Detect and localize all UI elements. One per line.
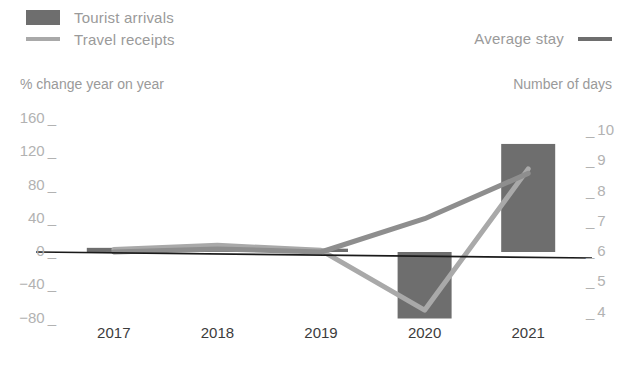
left-tick-80: 80 _ [28,176,56,193]
right-tick-5: _ 5 [586,272,606,289]
left-tick-0: 0 _ [36,242,56,259]
left-tick-40: 40 _ [28,209,56,226]
right-tick-4: _ 4 [586,303,606,320]
x-tick-2020: 2020 [385,324,465,341]
x-tick-2019: 2019 [281,324,361,341]
right-tick-9: _ 9 [586,151,606,168]
x-tick-2021: 2021 [488,324,568,341]
plot-area: 160 _120 _80 _40 _0 _−40 _−80 _ _ 10_ 9_… [0,0,626,366]
right-tick-8: _ 8 [586,182,606,199]
left-tick--40: −40 _ [19,275,56,292]
left-tick-120: 120 _ [20,142,56,159]
left-tick-160: 160 _ [20,109,56,126]
chart-canvas [0,0,626,366]
line-series-average-stay [114,173,528,252]
x-tick-2018: 2018 [177,324,257,341]
x-tick-2017: 2017 [74,324,154,341]
right-tick-7: _ 7 [586,212,606,229]
right-tick-6: _ 6 [586,242,606,259]
left-tick--80: −80 _ [19,309,56,326]
line-path [114,173,528,252]
line-series-travel-receipts [114,169,528,310]
tourism-indicators-chart: Tourist arrivals Travel receipts Average… [0,0,626,366]
right-tick-10: _ 10 [586,121,614,138]
line-path [114,169,528,310]
